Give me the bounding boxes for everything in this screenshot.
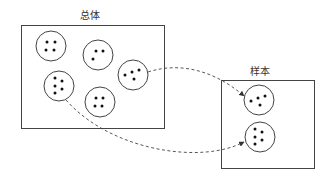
dashed-arrow	[148, 68, 244, 96]
dot	[254, 136, 257, 139]
dashed-arrow	[66, 100, 244, 153]
dot	[259, 104, 262, 107]
circle-outline	[244, 85, 274, 115]
circle-outline	[44, 71, 74, 101]
dot	[45, 49, 48, 52]
dot	[95, 50, 98, 53]
dot	[94, 105, 97, 108]
dot	[54, 85, 57, 88]
population-box	[22, 26, 165, 129]
dot	[133, 78, 136, 81]
sampling-diagram	[0, 0, 332, 183]
dot	[46, 41, 49, 44]
dot	[261, 139, 264, 142]
circle-outline	[36, 31, 66, 61]
dot	[124, 74, 127, 77]
group-circle	[118, 60, 148, 90]
sampling-arrows	[66, 68, 244, 153]
dot	[54, 77, 57, 80]
dot	[138, 69, 141, 72]
dot	[254, 128, 257, 131]
dot	[257, 97, 260, 100]
group-circle	[85, 87, 115, 117]
dot	[61, 88, 64, 91]
dot	[102, 97, 105, 100]
dot	[54, 92, 57, 95]
circle-outline	[245, 122, 275, 152]
circle-outline	[85, 87, 115, 117]
group-circle	[36, 31, 66, 61]
dot	[92, 58, 95, 61]
dot	[95, 97, 98, 100]
dot	[101, 105, 104, 108]
group-circle	[44, 71, 74, 101]
group-circle	[245, 122, 275, 152]
dot	[254, 143, 257, 146]
dot	[102, 50, 105, 53]
dot	[54, 41, 57, 44]
group-circle	[244, 85, 274, 115]
dot	[250, 100, 253, 103]
sample-box	[222, 81, 315, 169]
dot	[53, 49, 56, 52]
circle-outline	[83, 40, 113, 70]
group-circle	[83, 40, 113, 70]
dot	[131, 71, 134, 74]
dot	[61, 80, 64, 83]
dot	[261, 131, 264, 134]
circle-outline	[118, 60, 148, 90]
dot	[264, 95, 267, 98]
